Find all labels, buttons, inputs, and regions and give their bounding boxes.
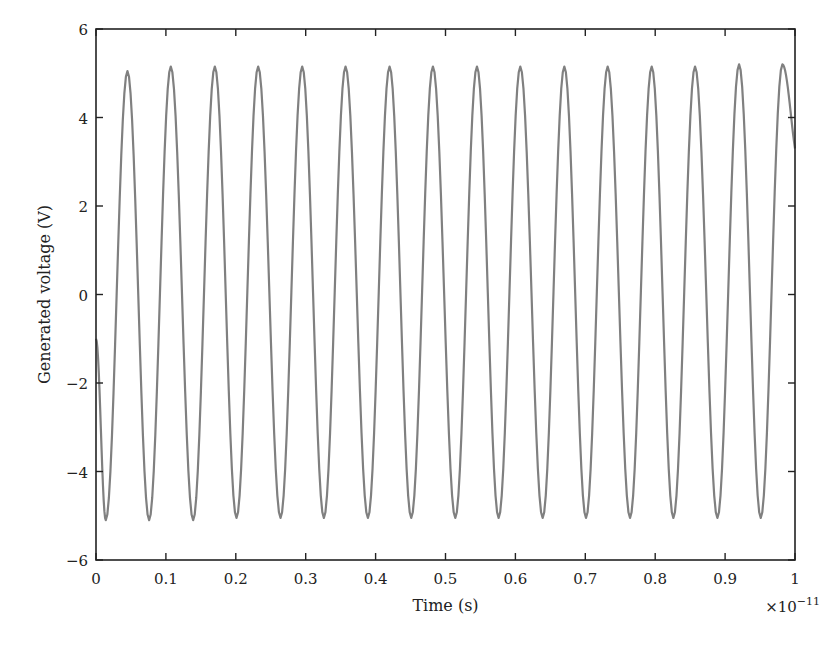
voltage-curve (96, 64, 795, 520)
x-tick-label: 0.4 (364, 570, 388, 588)
y-axis-label: Generated voltage (V) (35, 205, 54, 384)
x-tick-label: 0 (91, 570, 101, 588)
y-tick-label: 4 (78, 110, 88, 128)
chart: 00.10.20.30.40.50.60.70.80.91 −6−4−20246… (0, 0, 830, 660)
y-tick-label: −6 (66, 552, 88, 570)
x-tick-label: 1 (790, 570, 800, 588)
y-tick-label: 6 (78, 21, 88, 39)
x-tick-label: 0.7 (573, 570, 597, 588)
x-tick-label: 0.2 (224, 570, 248, 588)
x-tick-label: 0.5 (434, 570, 458, 588)
x-axis-label: Time (s) (412, 596, 478, 615)
x-tick-label: 0.1 (154, 570, 178, 588)
x-tick-label: 0.8 (643, 570, 667, 588)
y-tick-label: −4 (66, 464, 88, 482)
x-tick-label: 0.9 (713, 570, 737, 588)
y-tick-label: 0 (78, 287, 88, 305)
y-tick-label: 2 (78, 198, 88, 216)
voltage-line (96, 64, 795, 520)
x-tick-labels: 00.10.20.30.40.50.60.70.80.91 (91, 570, 800, 588)
x-multiplier-base: ×10 (765, 598, 797, 616)
y-tick-label: −2 (66, 375, 88, 393)
x-axis-multiplier: ×10−11 (765, 595, 820, 616)
x-multiplier-exponent: −11 (797, 595, 820, 608)
y-tick-labels: −6−4−20246 (66, 21, 88, 570)
x-tick-label: 0.6 (503, 570, 527, 588)
x-tick-label: 0.3 (294, 570, 318, 588)
